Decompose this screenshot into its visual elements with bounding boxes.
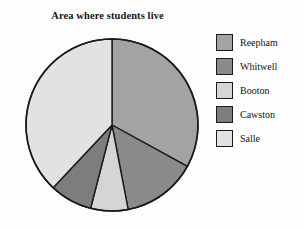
chart-legend: Reepham Whitwell Booton Cawston Salle <box>216 30 304 150</box>
legend-item-whitwell[interactable]: Whitwell <box>216 54 304 78</box>
legend-swatch-whitwell <box>216 58 233 75</box>
legend-label-whitwell: Whitwell <box>240 61 277 72</box>
pie-slice-group <box>26 39 198 211</box>
legend-item-cawston[interactable]: Cawston <box>216 102 304 126</box>
legend-swatch-reepham <box>216 34 233 51</box>
legend-swatch-cawston <box>216 106 233 123</box>
pie-chart-figure: Area where students live Reepham Whitwel… <box>0 0 304 230</box>
legend-label-salle: Salle <box>240 133 260 144</box>
legend-item-reepham[interactable]: Reepham <box>216 30 304 54</box>
legend-label-booton: Booton <box>240 85 269 96</box>
legend-swatch-booton <box>216 82 233 99</box>
legend-item-booton[interactable]: Booton <box>216 78 304 102</box>
legend-swatch-salle <box>216 130 233 147</box>
legend-label-reepham: Reepham <box>240 37 278 48</box>
legend-item-salle[interactable]: Salle <box>216 126 304 150</box>
legend-label-cawston: Cawston <box>240 109 275 120</box>
